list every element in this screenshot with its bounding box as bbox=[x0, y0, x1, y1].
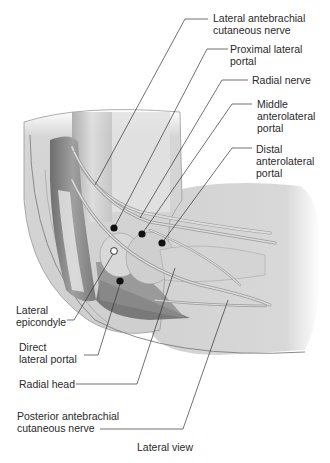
label-lateral-epicondyle: Lateral epicondyle bbox=[16, 304, 66, 328]
lateral-epicondyle-marker bbox=[111, 248, 118, 255]
middle-anterolateral-portal-marker bbox=[138, 230, 145, 237]
label-radial-nerve: Radial nerve bbox=[252, 74, 311, 86]
label-middle-anterolateral-portal: Middle anterolateral portal bbox=[257, 98, 315, 134]
label-proximal-lateral-portal: Proximal lateral portal bbox=[230, 43, 302, 67]
elbow-lateral-view-diagram: Lateral antebrachial cutaneous nerve Pro… bbox=[0, 0, 330, 463]
label-distal-anterolateral-portal: Distal anterolateral portal bbox=[256, 143, 314, 179]
distal-anterolateral-portal-marker bbox=[158, 239, 165, 246]
elbow-illustration bbox=[0, 0, 330, 463]
direct-lateral-portal-marker bbox=[116, 277, 123, 284]
label-radial-head: Radial head bbox=[19, 378, 75, 390]
label-direct-lateral-portal: Direct lateral portal bbox=[19, 341, 77, 365]
figure-caption: Lateral view bbox=[0, 441, 330, 453]
label-posterior-antebrachial-cutaneous-nerve: Posterior antebrachial cutaneous nerve bbox=[17, 410, 119, 434]
proximal-lateral-portal-marker bbox=[110, 224, 117, 231]
label-lateral-antebrachial-cutaneous-nerve: Lateral antebrachial cutaneous nerve bbox=[213, 12, 305, 36]
